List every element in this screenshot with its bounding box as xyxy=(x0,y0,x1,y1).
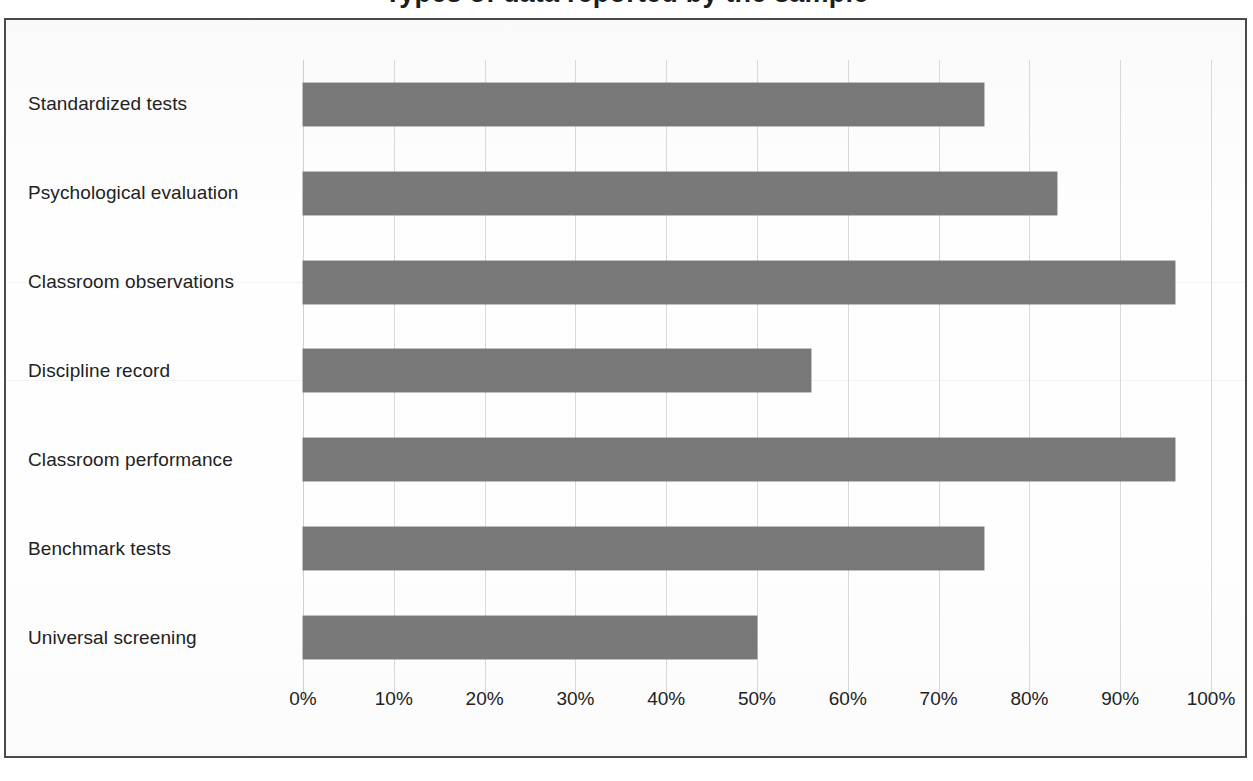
gridline-100 xyxy=(1211,60,1212,698)
bar-row xyxy=(303,327,1211,416)
category-label: Discipline record xyxy=(28,327,296,416)
x-tick-label: 90% xyxy=(1101,688,1139,710)
bar-row xyxy=(303,238,1211,327)
category-label: Classroom performance xyxy=(28,415,296,504)
category-label: Classroom observations xyxy=(28,238,296,327)
category-label: Psychological evaluation xyxy=(28,149,296,238)
x-tick-label: 80% xyxy=(1010,688,1048,710)
bar xyxy=(303,438,1175,481)
x-tick-label: 100% xyxy=(1187,688,1236,710)
x-tick-label: 40% xyxy=(647,688,685,710)
category-axis: Standardized testsPsychological evaluati… xyxy=(28,60,296,682)
x-tick-label: 70% xyxy=(920,688,958,710)
bar-row xyxy=(303,415,1211,504)
x-tick-label: 0% xyxy=(289,688,316,710)
bar-row xyxy=(303,60,1211,149)
chart-page: Types of data reported by the sample Sta… xyxy=(0,0,1253,781)
bar-series xyxy=(303,60,1211,682)
chart-title-text: Types of data reported by the sample xyxy=(0,0,1253,9)
bar xyxy=(303,172,1057,215)
bar xyxy=(303,349,811,392)
category-label: Universal screening xyxy=(28,593,296,682)
chart-title-clipped: Types of data reported by the sample xyxy=(0,0,1253,17)
chart-frame: Standardized testsPsychological evaluati… xyxy=(4,18,1247,758)
x-tick-label: 10% xyxy=(375,688,413,710)
x-tick-label: 20% xyxy=(466,688,504,710)
category-label: Standardized tests xyxy=(28,60,296,149)
bar xyxy=(303,616,757,659)
x-tick-label: 30% xyxy=(556,688,594,710)
bar xyxy=(303,83,984,126)
category-label: Benchmark tests xyxy=(28,504,296,593)
x-tick-label: 60% xyxy=(829,688,867,710)
bar-row xyxy=(303,593,1211,682)
bar-row xyxy=(303,504,1211,593)
x-tick-label: 50% xyxy=(738,688,776,710)
value-axis: 0%10%20%30%40%50%60%70%80%90%100% xyxy=(303,688,1211,722)
bar xyxy=(303,527,984,570)
bar xyxy=(303,261,1175,304)
plot-area xyxy=(303,60,1211,682)
bar-row xyxy=(303,149,1211,238)
